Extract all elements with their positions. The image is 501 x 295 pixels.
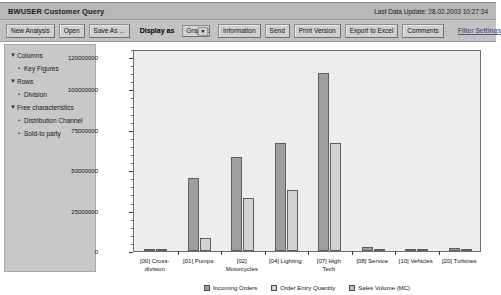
- sidebar-item-label: Distribution Channel: [24, 115, 83, 126]
- y-axis-tick-label: 25000000: [71, 209, 98, 215]
- y-axis-tick-label: 50000000: [71, 168, 98, 174]
- legend-item-2[interactable]: Sales Volume (MC): [349, 285, 410, 291]
- sidebar-item-label: Sold-to party: [24, 128, 61, 139]
- bar-1-3[interactable]: [287, 190, 298, 251]
- x-axis-tick-mark: [308, 251, 309, 255]
- bar-1-2[interactable]: [243, 198, 254, 251]
- x-axis-category-label: [20] Turbines: [431, 258, 489, 266]
- bar-1-5[interactable]: [374, 249, 385, 251]
- sidebar-item-label: Free characteristics: [17, 102, 74, 113]
- comments-button[interactable]: Comments: [402, 24, 443, 38]
- save-as-button[interactable]: Save As ...: [89, 24, 130, 38]
- x-axis-tick-mark: [178, 251, 179, 255]
- legend-item-1[interactable]: Order Entry Quantity: [271, 285, 335, 291]
- toolbar: New Analysis Open Save As ... Display as…: [0, 20, 496, 42]
- sidebar-item-free-characteristics[interactable]: ▼Free characteristics: [5, 101, 95, 114]
- print-version-button[interactable]: Print Version: [294, 24, 341, 38]
- sidebar-item-label: Columns: [17, 50, 43, 61]
- sidebar-item-distribution-channel[interactable]: •Distribution Channel: [5, 114, 95, 127]
- y-axis-tick-label: 100000000: [68, 87, 98, 93]
- bar-0-2[interactable]: [231, 157, 242, 251]
- bar-0-3[interactable]: [275, 143, 286, 251]
- plot-area: [133, 50, 481, 252]
- legend-swatch-icon: [271, 285, 277, 291]
- legend-swatch-icon: [349, 285, 355, 291]
- last-data-update: Last Data Update: 28.02.2003 10:27:34: [374, 8, 488, 15]
- tree-expander-icon[interactable]: ▼: [10, 102, 17, 113]
- chevron-down-icon[interactable]: ▼: [198, 27, 208, 36]
- bar-0-5[interactable]: [362, 247, 373, 251]
- sidebar-item-label: Rows: [17, 76, 33, 87]
- tree-expander-icon[interactable]: ▼: [10, 76, 17, 87]
- legend-label: Order Entry Quantity: [280, 285, 335, 291]
- y-axis-tick-label: 120000000: [68, 55, 98, 61]
- chart-legend: Incoming OrdersOrder Entry QuantitySales…: [133, 282, 481, 294]
- bar-1-6[interactable]: [417, 249, 428, 251]
- y-axis-tick-label: 0: [95, 249, 98, 255]
- bar-1-1[interactable]: [200, 238, 211, 251]
- x-axis-tick-mark: [221, 251, 222, 255]
- filter-settings-link[interactable]: Filter Settings: [458, 27, 501, 34]
- bar-0-6[interactable]: [405, 249, 416, 251]
- navigation-pane: ▼Columns•Key Figures▼Rows•Division▼Free …: [4, 44, 96, 272]
- legend-label: Sales Volume (MC): [358, 285, 410, 291]
- export-to-excel-button[interactable]: Export to Excel: [345, 24, 399, 38]
- sidebar-item-rows[interactable]: ▼Rows: [5, 75, 95, 88]
- open-button[interactable]: Open: [59, 24, 85, 38]
- chart-area: 0250000005000000075000000100000000120000…: [100, 44, 492, 292]
- legend-swatch-icon: [204, 285, 210, 291]
- display-as-label: Display as: [140, 27, 175, 34]
- bar-series-container: [134, 51, 480, 251]
- bar-1-0[interactable]: [156, 249, 167, 251]
- page-title: BWUSER Customer Query: [8, 7, 104, 16]
- sidebar-item-label: Key Figures: [24, 63, 59, 74]
- x-axis-tick-mark: [395, 251, 396, 255]
- bar-0-0[interactable]: [144, 249, 155, 251]
- bar-0-7[interactable]: [449, 248, 460, 251]
- bar-1-7[interactable]: [461, 249, 472, 251]
- tree-expander-icon[interactable]: ▼: [10, 50, 17, 61]
- sidebar-item-key-figures[interactable]: •Key Figures: [5, 62, 95, 75]
- x-axis-tick-mark: [439, 251, 440, 255]
- bar-0-1[interactable]: [188, 178, 199, 251]
- x-axis-tick-mark: [265, 251, 266, 255]
- bar-1-4[interactable]: [330, 143, 341, 251]
- send-button[interactable]: Send: [265, 24, 290, 38]
- y-axis-tick-label: 75000000: [71, 128, 98, 134]
- title-bar: BWUSER Customer Query Last Data Update: …: [0, 2, 496, 20]
- x-axis-labels: [00] Cross- division[01] Pumps[02] Motor…: [133, 258, 481, 282]
- bar-0-4[interactable]: [318, 73, 329, 251]
- display-as-select[interactable]: Graphic ▼: [182, 25, 210, 37]
- information-button[interactable]: Information: [218, 24, 261, 38]
- legend-label: Incoming Orders: [213, 285, 257, 291]
- x-axis-tick-mark: [352, 251, 353, 255]
- sidebar-item-label: Division: [24, 89, 47, 100]
- legend-item-0[interactable]: Incoming Orders: [204, 285, 257, 291]
- new-analysis-button[interactable]: New Analysis: [6, 24, 55, 38]
- y-axis-tick-mark: [129, 252, 133, 253]
- y-axis: 0250000005000000075000000100000000120000…: [100, 44, 133, 254]
